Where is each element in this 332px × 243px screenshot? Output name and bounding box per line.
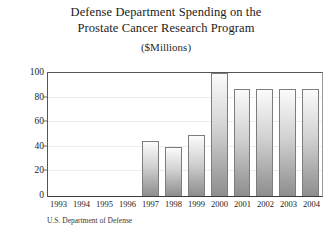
x-axis-tick-label: 1994 bbox=[70, 199, 93, 209]
chart-title-line-1: Defense Department Spending on the bbox=[0, 4, 332, 20]
bar-1998[interactable] bbox=[165, 147, 182, 196]
bar-slot bbox=[253, 73, 276, 196]
x-axis-tick-label: 1993 bbox=[47, 199, 70, 209]
bar-2000[interactable] bbox=[211, 73, 228, 196]
x-axis-tick-label: 1996 bbox=[116, 199, 139, 209]
x-axis: 1993199419951996199719981999200020012002… bbox=[47, 199, 323, 209]
bar-slot bbox=[185, 73, 208, 196]
y-axis-tick-label: 20 bbox=[4, 165, 44, 175]
chart-title-block: Defense Department Spending on the Prost… bbox=[0, 4, 332, 55]
bar-slot bbox=[231, 73, 254, 196]
bar-1997[interactable] bbox=[142, 141, 159, 196]
x-axis-tick-label: 2003 bbox=[277, 199, 300, 209]
bar-slot bbox=[116, 73, 139, 196]
bar-slot bbox=[94, 73, 117, 196]
y-axis-tick-label: 40 bbox=[4, 141, 44, 151]
bar-2002[interactable] bbox=[256, 89, 273, 196]
x-axis-tick-label: 2004 bbox=[300, 199, 323, 209]
chart-figure: Defense Department Spending on the Prost… bbox=[0, 0, 332, 243]
bar-slot bbox=[299, 73, 322, 196]
y-axis-tick-mark bbox=[43, 170, 47, 171]
bar-slot bbox=[208, 73, 231, 196]
bar-slot bbox=[162, 73, 185, 196]
chart-title-line-2: Prostate Cancer Research Program bbox=[0, 20, 332, 36]
x-axis-tick-label: 1997 bbox=[139, 199, 162, 209]
y-axis-tick-label: 100 bbox=[4, 67, 44, 77]
bar-slot bbox=[48, 73, 71, 196]
bar-slot bbox=[139, 73, 162, 196]
x-axis-tick-label: 1999 bbox=[185, 199, 208, 209]
y-axis-tick-mark bbox=[43, 145, 47, 146]
x-axis-tick-label: 1998 bbox=[162, 199, 185, 209]
bar-2001[interactable] bbox=[234, 89, 251, 196]
y-axis-tick-mark bbox=[43, 121, 47, 122]
x-axis-tick-label: 2002 bbox=[254, 199, 277, 209]
x-axis-tick-label: 2001 bbox=[231, 199, 254, 209]
plot-area bbox=[47, 72, 323, 197]
y-axis-tick-label: 60 bbox=[4, 116, 44, 126]
bar-slot bbox=[71, 73, 94, 196]
x-axis-tick-label: 2000 bbox=[208, 199, 231, 209]
x-axis-tick-label: 1995 bbox=[93, 199, 116, 209]
chart-subtitle: ($Millions) bbox=[0, 39, 332, 55]
bar-2003[interactable] bbox=[279, 89, 296, 196]
bar-2004[interactable] bbox=[302, 89, 319, 196]
bar-slot bbox=[276, 73, 299, 196]
bar-1999[interactable] bbox=[188, 135, 205, 197]
y-axis-tick-label: 80 bbox=[4, 92, 44, 102]
source-note: U.S. Department of Defense bbox=[47, 216, 132, 225]
bar-series bbox=[48, 73, 322, 196]
y-axis-tick-label: 0 bbox=[4, 190, 44, 200]
y-axis-tick-mark bbox=[43, 96, 47, 97]
